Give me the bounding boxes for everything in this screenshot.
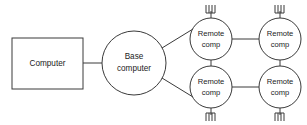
remote-comp-bottom-right-label-line1: Remote [267, 77, 294, 86]
node-remote-comp-bottom-left[interactable]: Remote comp [190, 66, 232, 121]
base-computer-label-line2: computer [117, 64, 151, 73]
link-base-to-remote-top-left [162, 29, 193, 48]
diagram-canvas: Computer Base computer Remote comp [0, 0, 307, 125]
remote-comp-top-left-label-line1: Remote [198, 29, 225, 38]
remote-comp-bottom-right-circle[interactable] [259, 66, 301, 108]
antenna-icon [275, 108, 284, 121]
remote-comp-top-right-label-line1: Remote [267, 29, 294, 38]
remote-comp-bottom-left-label-line2: comp [202, 88, 221, 97]
node-remote-comp-top-right[interactable]: Remote comp [259, 5, 301, 60]
antenna-icon [206, 108, 215, 121]
remote-comp-bottom-right-label-line2: comp [271, 88, 290, 97]
remote-comp-top-left-circle[interactable] [190, 18, 232, 60]
base-computer-label-line1: Base [125, 52, 144, 61]
remote-comp-top-right-circle[interactable] [259, 18, 301, 60]
link-base-to-remote-bottom-left [162, 78, 193, 97]
base-computer-circle[interactable] [102, 31, 166, 95]
antenna-icon [206, 5, 215, 18]
remote-comp-top-right-label-line2: comp [271, 40, 290, 49]
remote-comp-top-left-label-line2: comp [202, 40, 221, 49]
network-diagram: Computer Base computer Remote comp [0, 0, 307, 125]
node-base-computer[interactable]: Base computer [102, 31, 166, 95]
antenna-icon [275, 5, 284, 18]
computer-label: Computer [30, 59, 66, 68]
node-computer[interactable]: Computer [12, 38, 83, 89]
node-remote-comp-bottom-right[interactable]: Remote comp [259, 66, 301, 121]
remote-comp-bottom-left-label-line1: Remote [198, 77, 225, 86]
node-remote-comp-top-left[interactable]: Remote comp [190, 5, 232, 60]
remote-comp-bottom-left-circle[interactable] [190, 66, 232, 108]
